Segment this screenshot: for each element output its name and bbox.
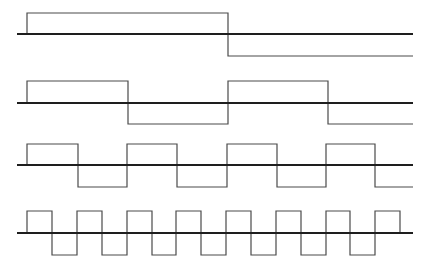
wave-2-group [17, 81, 413, 124]
wave-4-group [17, 211, 413, 255]
wave-3-group [17, 144, 413, 187]
wave-1-group [17, 13, 413, 56]
square-wave-diagram [0, 0, 427, 274]
